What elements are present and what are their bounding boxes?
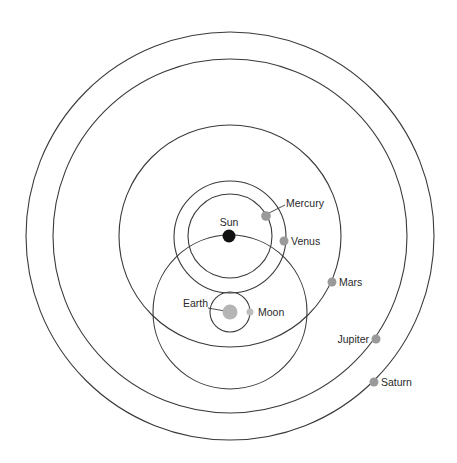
solar-system-diagram: Sun Mercury Venus Earth Moon Mars Jupite… [0,0,457,463]
mercury-dot [261,211,271,221]
venus-dot [280,237,289,246]
jupiter-dot [372,335,381,344]
moon-dot [247,309,254,316]
earth-label: Earth [183,297,208,309]
moon-label: Moon [258,306,284,318]
diagram-canvas: Sun Mercury Venus Earth Moon Mars Jupite… [0,0,457,463]
earth-dot [223,305,238,320]
sun-label: Sun [220,216,239,228]
mars-label: Mars [339,276,362,288]
saturn-label: Saturn [381,376,412,388]
mars-dot [328,278,337,287]
saturn-dot [370,378,379,387]
mercury-label: Mercury [286,197,325,209]
jupiter-label: Jupiter [337,333,369,345]
sun-dot [223,230,236,243]
venus-label: Venus [291,235,320,247]
